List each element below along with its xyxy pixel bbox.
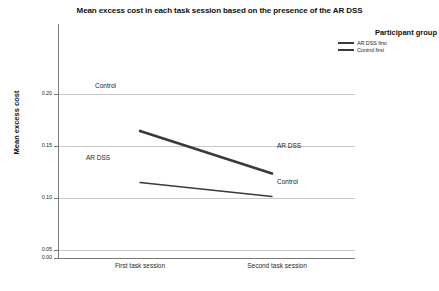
x-axis-line bbox=[58, 258, 355, 259]
x-tick-label-first-session: First task session bbox=[90, 262, 190, 269]
legend-line-icon-ar-dss-first bbox=[338, 42, 354, 43]
point-label-control-first-session: Control bbox=[95, 82, 116, 89]
y-tick-label: 0.05 bbox=[4, 246, 52, 252]
y-tick-0-20: 0.20 bbox=[0, 90, 52, 98]
point-label-ar-dss-second-session: AR DSS bbox=[277, 142, 301, 149]
legend: Participant group AR DSS first Control f… bbox=[330, 28, 439, 54]
y-tick-0-10: 0.10 bbox=[0, 194, 52, 202]
gridline-0-15 bbox=[58, 146, 355, 147]
legend-label: Control first bbox=[357, 47, 384, 53]
chart-container: Mean excess cost in each task session ba… bbox=[0, 0, 439, 291]
y-axis-title: Mean excess cost bbox=[12, 63, 21, 183]
gridline-0-10 bbox=[58, 198, 355, 199]
y-tick-mark bbox=[54, 146, 58, 147]
y-tick-0-05: 0.05 bbox=[0, 246, 52, 254]
x-tick-label-second-session: Second task session bbox=[222, 262, 332, 269]
y-tick-label: 0.00 bbox=[4, 254, 52, 260]
legend-item-control-first[interactable]: Control first bbox=[330, 47, 439, 53]
gridline-0-05 bbox=[58, 250, 355, 251]
legend-item-ar-dss-first[interactable]: AR DSS first bbox=[330, 40, 439, 46]
gridline-0-20 bbox=[58, 94, 355, 95]
y-tick-0-00: 0.00 bbox=[0, 254, 52, 262]
legend-line-icon-control-first bbox=[338, 49, 354, 52]
chart-title: Mean excess cost in each task session ba… bbox=[0, 6, 439, 15]
y-tick-mark bbox=[54, 94, 58, 95]
point-label-control-second-session: Control bbox=[277, 178, 298, 185]
series-line-ar-dss-first bbox=[140, 183, 272, 197]
legend-title: Participant group bbox=[330, 28, 439, 37]
y-tick-mark bbox=[54, 198, 58, 199]
y-tick-label: 0.10 bbox=[4, 194, 52, 200]
legend-label: AR DSS first bbox=[357, 40, 387, 46]
y-axis-line bbox=[58, 24, 59, 259]
point-label-ar-dss-first-session: AR DSS bbox=[86, 154, 110, 161]
y-tick-mark bbox=[54, 250, 58, 251]
series-line-control-first bbox=[140, 131, 272, 174]
y-tick-0-15: 0.15 bbox=[0, 142, 52, 150]
y-tick-mark bbox=[54, 258, 58, 259]
